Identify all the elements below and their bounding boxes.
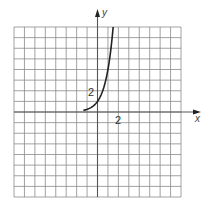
- y-axis-label: y: [102, 8, 107, 18]
- coordinate-plane: [0, 0, 214, 216]
- x-axis-label: x: [195, 114, 200, 124]
- x-tick-label: 2: [115, 115, 121, 126]
- axes: [14, 9, 201, 197]
- y-axis-arrow-icon: [95, 9, 100, 17]
- y-tick-label: 2: [88, 87, 94, 98]
